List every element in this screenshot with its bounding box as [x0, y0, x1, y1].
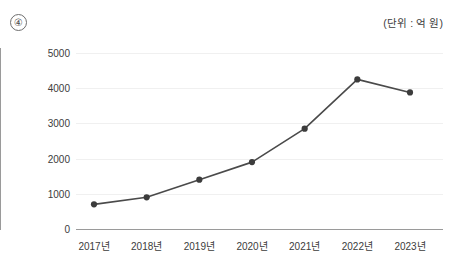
- y-axis-line: [0, 48, 1, 230]
- y-tick-label: 2000: [28, 153, 70, 164]
- x-tick-label: 2017년: [78, 238, 109, 253]
- gridline: [76, 194, 443, 195]
- gridline: [76, 159, 443, 160]
- y-tick-label: 3000: [28, 118, 70, 129]
- choice-number-marker: ④: [10, 14, 27, 31]
- x-tick-label: 2023년: [394, 238, 425, 253]
- x-tick-label: 2018년: [131, 238, 162, 253]
- y-tick-label: 1000: [28, 188, 70, 199]
- gridline: [76, 53, 443, 54]
- x-tick-label: 2019년: [184, 238, 215, 253]
- y-tick-label: 0: [28, 224, 70, 235]
- chart-figure: ④ (단위 : 억 원) 010002000300040005000 2017년…: [0, 0, 455, 269]
- x-axis-line: [76, 229, 443, 230]
- gridline: [76, 123, 443, 124]
- x-tick-label: 2020년: [236, 238, 267, 253]
- gridline: [76, 88, 443, 89]
- y-tick-label: 4000: [28, 83, 70, 94]
- x-tick-label: 2022년: [342, 238, 373, 253]
- plot-area: [76, 48, 443, 229]
- y-tick-label: 5000: [28, 48, 70, 59]
- unit-note-label: (단위 : 억 원): [383, 15, 443, 30]
- x-tick-label: 2021년: [289, 238, 320, 253]
